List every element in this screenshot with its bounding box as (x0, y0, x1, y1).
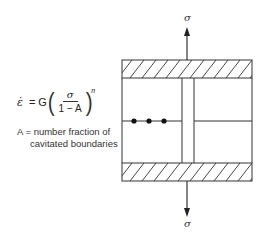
cavity-dot-icon (131, 118, 136, 123)
top-grip-hatched (118, 60, 264, 78)
specimen-body (122, 78, 252, 163)
top-stress-label: σ (184, 12, 191, 23)
cavity-dot-icon (146, 118, 151, 123)
bottom-stress-label: σ (184, 218, 191, 229)
grain-boundary-diagram (0, 0, 264, 241)
cavity-dot-icon (161, 118, 166, 123)
top-stress-arrow-icon (184, 27, 190, 60)
bottom-stress-arrow-icon (184, 181, 190, 217)
bottom-grip-hatched (118, 163, 264, 181)
